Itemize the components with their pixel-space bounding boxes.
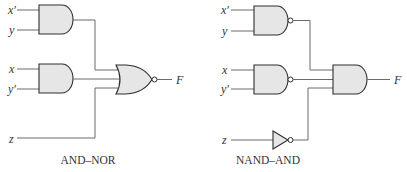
nor-gate	[116, 65, 152, 94]
caption-nand-and: NAND–AND	[236, 154, 300, 166]
wire	[293, 21, 333, 71]
input-label-y-prime: y′	[7, 82, 16, 96]
wire	[73, 20, 120, 70]
and-nor-circuit: x′ y x y′ z F AND–NOR	[7, 3, 184, 166]
not-gate	[273, 131, 288, 149]
inversion-bubble	[288, 77, 293, 82]
input-label-x-prime: x′	[7, 3, 16, 17]
nand-gate-2	[254, 65, 288, 94]
input-label-y: y	[8, 23, 15, 37]
wire	[17, 88, 120, 138]
and-gate-1	[39, 5, 73, 34]
output-label-f: F	[175, 73, 184, 87]
and-gate-2	[39, 64, 73, 93]
nand-and-circuit: x′ y x y′ z F NAND–AND	[220, 3, 402, 166]
wire	[293, 88, 333, 140]
inversion-bubble	[288, 138, 293, 143]
input-label-y-prime: y′	[220, 82, 229, 96]
input-label-x: x	[8, 62, 15, 76]
input-label-x-prime: x′	[220, 3, 229, 17]
input-label-y: y	[221, 24, 228, 38]
input-label-x: x	[221, 63, 228, 77]
input-label-z: z	[221, 133, 227, 147]
inversion-bubble	[152, 77, 157, 82]
inversion-bubble	[288, 18, 293, 23]
output-label-f: F	[393, 73, 402, 87]
input-label-z: z	[8, 132, 14, 146]
nand-gate-1	[254, 6, 288, 35]
logic-diagrams: x′ y x y′ z F AND–NOR x′ y x y′ z	[0, 0, 407, 172]
and-gate-output	[333, 65, 367, 94]
caption-and-nor: AND–NOR	[61, 154, 116, 166]
